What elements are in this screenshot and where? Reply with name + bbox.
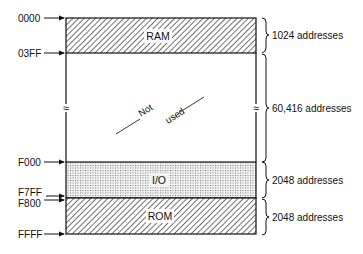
break-mark-right: ≈ (253, 102, 259, 114)
brace-icon (262, 18, 269, 53)
segment-io: I/O (66, 162, 256, 198)
size-label-unused: 60,416 addresses (272, 103, 352, 114)
used-label: used (163, 105, 186, 125)
segment-label-io: I/O (152, 174, 166, 186)
size-label-io: 2048 addresses (272, 175, 343, 186)
address-f7ff: F7FF (18, 187, 42, 198)
address-f800: F800 (18, 198, 41, 209)
not-label: Not (136, 101, 155, 118)
memory-map-diagram: RAM ≈ ≈ Not used I/O ROM 0000 03FF F000 … (0, 0, 363, 254)
brace-icon (262, 199, 269, 235)
address-labels: 0000 03FF F000 F7FF F800 FFFF (18, 13, 64, 240)
address-ffff: FFFF (18, 229, 42, 240)
segment-rom: ROM (66, 198, 256, 234)
address-f000: F000 (18, 157, 41, 168)
brace-icon (262, 162, 269, 198)
break-mark-left: ≈ (63, 102, 69, 114)
size-label-ram: 1024 addresses (272, 30, 343, 41)
segment-unused: ≈ ≈ Not used (62, 53, 260, 162)
address-03ff: 03FF (18, 48, 41, 59)
address-0000: 0000 (18, 13, 41, 24)
segment-label-ram: RAM (146, 30, 169, 42)
segment-label-rom: ROM (148, 210, 173, 222)
size-label-rom: 2048 addresses (272, 212, 343, 223)
brace-icon (262, 54, 269, 162)
segment-ram: RAM (66, 18, 256, 53)
size-annotations (262, 18, 269, 235)
